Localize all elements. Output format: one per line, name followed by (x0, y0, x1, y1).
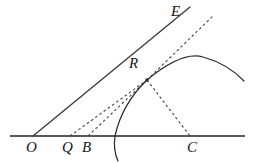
point-label-o: O (26, 140, 37, 155)
arc-upper-curve (147, 56, 244, 81)
point-label-b: B (82, 140, 91, 155)
point-label-c: C (187, 140, 197, 155)
point-label-r: R (129, 56, 138, 71)
point-label-e: E (171, 4, 180, 19)
point-label-q: Q (62, 140, 73, 155)
dashed-line-r-upper (147, 16, 213, 80)
figure-root: E R O Q B C (0, 0, 257, 163)
dashed-line-r-to-c (147, 80, 190, 136)
vertex-point-r (145, 78, 148, 81)
geometry-canvas (0, 0, 257, 163)
dashed-line-q-to-r (70, 80, 147, 136)
line-o-to-e (33, 7, 190, 136)
